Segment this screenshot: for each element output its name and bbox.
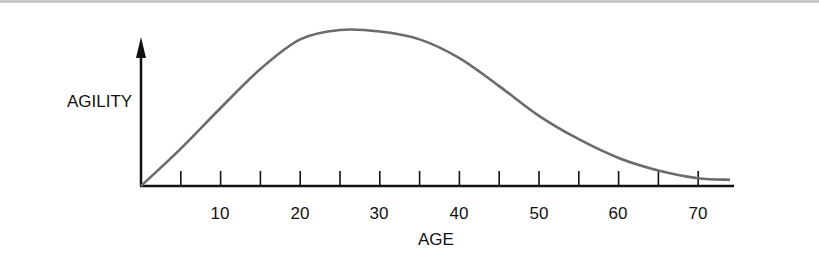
- x-tick-label: 10: [211, 204, 230, 224]
- x-tick-label: 30: [370, 204, 389, 224]
- x-tick-label: 60: [609, 204, 628, 224]
- x-tick-label: 50: [530, 204, 549, 224]
- x-tick-label: 40: [450, 204, 469, 224]
- y-axis-label: AGILITY: [67, 92, 132, 112]
- agility-curve: [141, 29, 730, 186]
- y-axis-arrow-icon: [136, 37, 146, 58]
- x-axis-label: AGE: [418, 230, 454, 250]
- chart-canvas: [0, 0, 819, 274]
- x-tick-label: 20: [291, 204, 310, 224]
- x-axis-ticks: [181, 171, 698, 186]
- x-tick-label: 70: [689, 204, 708, 224]
